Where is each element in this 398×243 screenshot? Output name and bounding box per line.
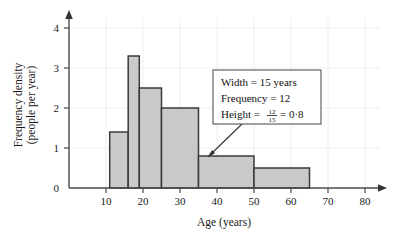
bar-11-16 <box>110 132 129 188</box>
annotation-callout: Width = 15 years Frequency = 12 Height =… <box>213 70 321 124</box>
x-tick-label-50: 50 <box>249 195 261 207</box>
bar-16-19 <box>128 56 139 188</box>
bar-50-65 <box>254 168 310 188</box>
callout-line-frequency: Frequency = 12 <box>221 92 290 104</box>
x-axis-title: Age (years) <box>197 216 251 229</box>
x-tick-label-10: 10 <box>101 195 113 207</box>
y-tick-label-3: 3 <box>54 62 60 74</box>
callout-line-height-suffix: = 0·8 <box>280 108 304 120</box>
y-axis-title-line1: Frequency density <box>12 62 25 147</box>
x-tick-label-70: 70 <box>323 195 335 207</box>
callout-line-width: Width = 15 years <box>221 76 297 88</box>
bar-19-25 <box>139 88 161 188</box>
chart-svg: 0 1 2 3 4 10 20 30 40 50 60 70 80 <box>0 0 398 243</box>
bar-25-35 <box>162 108 199 188</box>
x-tick-label-20: 20 <box>138 195 150 207</box>
histogram-figure: 0 1 2 3 4 10 20 30 40 50 60 70 80 <box>0 0 398 243</box>
y-tick-label-2: 2 <box>54 102 60 114</box>
x-tick-label-60: 60 <box>286 195 298 207</box>
bar-35-50 <box>199 156 255 188</box>
x-tick-label-80: 80 <box>360 195 372 207</box>
callout-line-height-prefix: Height = <box>221 108 260 120</box>
callout-fraction-numerator: 12 <box>269 108 277 116</box>
y-tick-label-0: 0 <box>54 182 60 194</box>
callout-fraction-denominator: 15 <box>269 116 277 124</box>
y-axis-title: Frequency density (people per year) <box>12 62 38 147</box>
y-tick-label-4: 4 <box>54 22 60 34</box>
y-tick-label-1: 1 <box>54 142 60 154</box>
y-axis-title-line2: (people per year) <box>25 66 38 145</box>
x-tick-label-30: 30 <box>175 195 187 207</box>
x-tick-label-40: 40 <box>212 195 224 207</box>
